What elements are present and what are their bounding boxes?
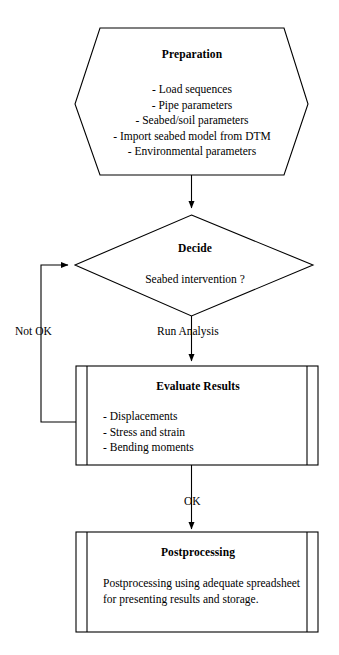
preparation-item: - Import seabed model from DTM — [76, 129, 308, 145]
evaluate-results-item-list: - Displacements - Stress and strain - Be… — [103, 409, 303, 456]
evaluate-results-title: Evaluate Results — [88, 380, 308, 392]
decide-question: Seabed intervention ? — [95, 273, 295, 285]
decide-diamond-shape — [75, 215, 313, 316]
edge-label-not-ok: Not OK — [15, 325, 52, 337]
preparation-item: - Environmental parameters — [76, 144, 308, 160]
decide-title: Decide — [95, 242, 295, 254]
edge-label-ok: OK — [184, 495, 201, 507]
evaluate-results-item: - Bending moments — [103, 440, 303, 456]
edge-evaluate-to-decide-not-ok — [41, 265, 76, 422]
evaluate-results-item: - Displacements — [103, 409, 303, 425]
preparation-item: - Seabed/soil parameters — [76, 113, 308, 129]
postprocessing-body: Postprocessing using adequate spreadshee… — [103, 576, 301, 607]
flowchart-canvas: Preparation - Load sequences - Pipe para… — [0, 0, 339, 655]
postprocessing-title: Postprocessing — [88, 546, 308, 558]
preparation-item-list: - Load sequences - Pipe parameters - Sea… — [76, 82, 308, 160]
preparation-item: - Load sequences — [76, 82, 308, 98]
evaluate-results-item: - Stress and strain — [103, 425, 303, 441]
preparation-title: Preparation — [76, 48, 308, 60]
edge-label-run-analysis: Run Analysis — [157, 325, 219, 337]
preparation-item: - Pipe parameters — [76, 98, 308, 114]
